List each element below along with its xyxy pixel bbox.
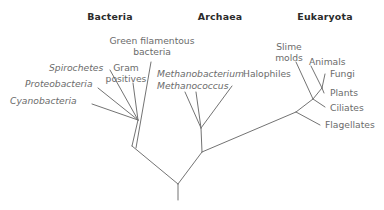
- branch-plants: [322, 88, 324, 93]
- branch-flagellates: [296, 112, 320, 125]
- branch-euk-crown: [296, 99, 313, 112]
- branch-ciliates: [313, 99, 325, 107]
- taxon-label-halophiles: Halophiles: [243, 69, 291, 80]
- branch-slime-molds: [296, 62, 313, 99]
- branch-bacteria-node: [132, 146, 178, 184]
- branch-proteobacteria: [98, 88, 138, 120]
- taxon-label-ciliates: Ciliates: [330, 103, 364, 114]
- domain-heading-archaea: Archaea: [185, 12, 255, 23]
- branch-euk-node: [202, 112, 296, 152]
- branch-archaea-node: [201, 128, 202, 152]
- phylogenetic-tree-figure: Bacteria Archaea Eukaryota Cyanobacteria…: [0, 0, 384, 210]
- branch-gram-positives: [133, 83, 138, 120]
- taxon-label-gram-positives: Grampositives: [105, 63, 147, 84]
- taxon-label-green-filamentous-bacteria: Green filamentousbacteria: [108, 36, 196, 57]
- branch-halophiles: [201, 86, 232, 128]
- taxon-label-plants: Plants: [330, 88, 358, 99]
- taxon-label-spirochetes: Spirochetes: [49, 63, 103, 74]
- branch-fungi: [322, 74, 325, 88]
- taxon-label-flagellates: Flagellates: [325, 120, 375, 131]
- branch-bacteria-crown: [132, 120, 138, 146]
- branch-animals-fungi: [313, 88, 322, 99]
- domain-heading-bacteria: Bacteria: [75, 12, 145, 23]
- branch-archaea-euk-node: [178, 152, 202, 184]
- branch-methanococcus: [196, 92, 201, 128]
- taxon-label-methanobacterium: Methanobacterium: [157, 69, 244, 80]
- taxon-label-animals: Animals: [309, 57, 346, 68]
- taxon-label-methanococcus: Methanococcus: [157, 81, 228, 92]
- branch-animals: [311, 66, 322, 88]
- domain-heading-eukaryota: Eukaryota: [290, 12, 360, 23]
- branch-cyanobacteria: [92, 104, 138, 120]
- taxon-label-fungi: Fungi: [330, 69, 355, 80]
- taxon-label-proteobacteria: Proteobacteria: [25, 79, 93, 90]
- taxon-label-slime-molds: Slimemolds: [270, 42, 308, 63]
- branch-methanobacterium: [185, 92, 201, 128]
- taxon-label-cyanobacteria: Cyanobacteria: [10, 96, 77, 107]
